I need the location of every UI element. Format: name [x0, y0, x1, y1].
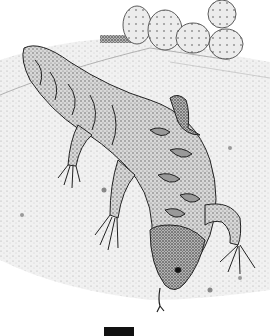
eye: [175, 268, 181, 273]
black-bar: [104, 327, 134, 336]
gila-monster-illustration: [0, 0, 270, 336]
